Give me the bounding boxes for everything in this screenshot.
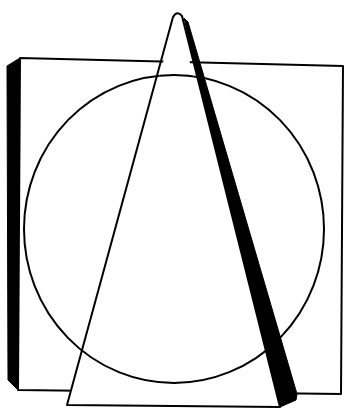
geometric-figure [0,0,351,418]
